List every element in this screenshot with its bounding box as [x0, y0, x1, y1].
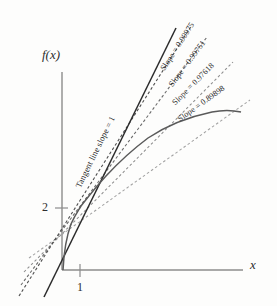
calculus-tangent-figure: f(x) x 2 1 Tangent line slope = 1 Slope …: [0, 0, 277, 306]
y-axis-tick-label-2: 2: [42, 201, 48, 213]
x-axis-tick-label-1: 1: [77, 281, 83, 293]
function-curve: [63, 111, 241, 271]
secant-line-3: [24, 62, 233, 272]
plot-canvas: [0, 0, 277, 306]
x-axis-label: x: [250, 258, 256, 271]
y-axis-label: f(x): [42, 48, 60, 61]
